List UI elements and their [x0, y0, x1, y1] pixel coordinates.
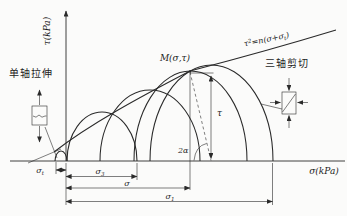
sigma-3-label: σ3 [96, 167, 105, 177]
envelope-equation: τ2=n(σ+σt) [243, 30, 290, 49]
tau-label: τ [217, 108, 223, 118]
shear-plane-line [283, 94, 296, 112]
sigma-1-label: σ1 [166, 192, 175, 202]
mohr-circle-diagram: τ(kPa) σ(kPa) τ2=n(σ+σt) M(σ,τ) τ 2α σt … [0, 0, 347, 216]
y-axis-label: τ(kPa) [42, 16, 52, 45]
dashed-radius-line [190, 72, 211, 161]
shear-specimen-label: 三轴剪切 [265, 57, 309, 69]
tension-specimen-label: 单轴拉伸 [9, 67, 53, 79]
fracture-plane-line [33, 115, 47, 117]
shear-leader-line [261, 104, 282, 109]
shear-specimen-icon: 三轴剪切 [261, 57, 309, 128]
sigma-label: σ [124, 179, 130, 188]
failure-envelope [54, 30, 336, 152]
angle-2a-label: 2α [177, 146, 189, 155]
diagram-canvas: τ(kPa) σ(kPa) τ2=n(σ+σt) M(σ,τ) τ 2α σt … [0, 0, 347, 216]
tension-specimen-icon: 单轴拉伸 [9, 67, 61, 163]
sigma-t-label: σt [36, 166, 44, 176]
mohr-circle-tension [55, 151, 67, 161]
x-axis-label: σ(kPa) [309, 166, 339, 176]
mohr-circle-large [150, 65, 273, 161]
point-m-label: M(σ,τ) [159, 53, 191, 63]
